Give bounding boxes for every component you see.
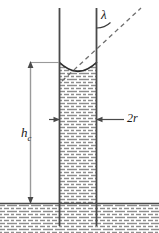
liquid-column: [58, 60, 98, 205]
capillary-height-label: hc: [21, 126, 31, 142]
diameter-label: 2r: [127, 112, 138, 124]
liquid-reservoir: [0, 203, 159, 233]
contact-angle-arc: [97, 23, 111, 29]
capillary-rise-figure: λ 2r hc: [0, 0, 159, 233]
height-dimension: [28, 61, 59, 204]
capillary-height-subscript: c: [28, 133, 32, 143]
contact-angle-label: λ: [101, 8, 107, 21]
